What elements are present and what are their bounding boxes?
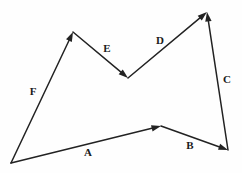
vector-label-c: C [223, 73, 231, 85]
vector-label-e: E [103, 42, 110, 54]
vector-diagram-canvas: ABCDEF [0, 0, 242, 173]
vector-label-a: A [84, 146, 92, 158]
vector-label-b: B [186, 139, 194, 151]
vector-label-d: D [156, 34, 164, 46]
vector-diagram-figure: ABCDEF [0, 0, 242, 173]
vector-label-f: F [30, 85, 37, 97]
